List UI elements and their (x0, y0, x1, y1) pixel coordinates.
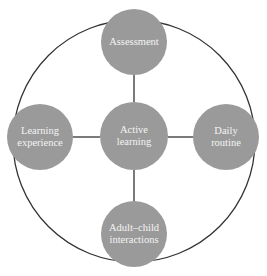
node-assessment: Assessment (101, 30, 167, 54)
node-label-line1: Learning (17, 125, 62, 137)
node-adult-child-interactions: Adult–childinteractions (101, 221, 167, 247)
node-daily-routine: Dailyroutine (193, 124, 259, 150)
center-label-line1: Active (117, 124, 151, 136)
node-label-line1: Adult–child (109, 222, 159, 234)
node-label-line2: routine (211, 137, 241, 149)
node-label-line2: experience (17, 137, 62, 149)
center-label-line2: learning (117, 136, 151, 148)
node-active-learning: Activelearning (100, 123, 168, 149)
active-learning-diagram: Assessment Learningexperience Dailyrouti… (0, 0, 267, 276)
node-label: Assessment (109, 36, 159, 48)
node-label-line1: Daily (211, 125, 241, 137)
node-learning-experience: Learningexperience (7, 124, 73, 150)
node-label-line2: interactions (109, 234, 159, 246)
